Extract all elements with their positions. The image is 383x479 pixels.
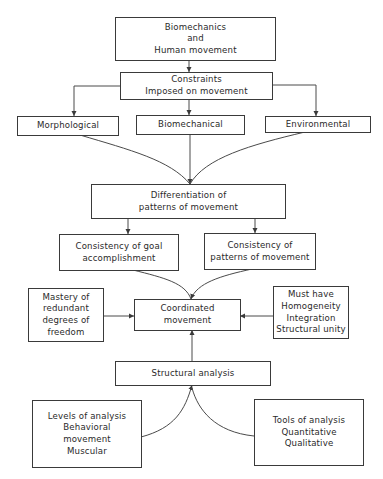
node-biomechanical: Biomechanical: [136, 115, 245, 135]
node-text: Consistency of goal: [76, 241, 163, 253]
node-text: Qualitative: [285, 438, 334, 450]
node-text: degrees of: [42, 315, 89, 327]
edge-constraints-environmental: [272, 85, 316, 116]
node-text: Integration: [286, 313, 335, 325]
node-biomechanics-human-movement: Biomechanics and Human movement: [115, 17, 276, 61]
node-text: movement: [63, 434, 111, 446]
edge-morphological-differentiation: [80, 135, 190, 184]
node-text: Quantitative: [281, 427, 336, 439]
node-text: and: [187, 33, 204, 45]
node-text: Structural analysis: [152, 368, 235, 380]
node-text: Muscular: [67, 446, 107, 458]
node-text: accomplishment: [82, 253, 155, 265]
node-coordinated-movement: Coordinated movement: [134, 299, 241, 331]
node-text: Human movement: [154, 45, 236, 57]
node-mastery: Mastery of redundant degrees of freedom: [28, 288, 104, 342]
node-consistency-goal: Consistency of goal accomplishment: [59, 234, 179, 271]
node-environmental: Environmental: [265, 116, 371, 133]
node-text: movement: [164, 315, 212, 327]
node-text: Imposed on movement: [145, 86, 247, 98]
node-text: patterns of movement: [139, 202, 238, 214]
node-text: Morphological: [37, 120, 99, 132]
node-text: Constraints: [171, 74, 222, 86]
node-text: Behavioral: [63, 422, 110, 434]
node-text: Biomechanical: [158, 119, 223, 131]
node-morphological: Morphological: [17, 116, 119, 136]
node-constraints: Constraints Imposed on movement: [120, 72, 273, 100]
node-text: freedom: [47, 327, 84, 339]
node-text: Homogeneity: [281, 301, 340, 313]
node-text: Must have: [288, 289, 334, 301]
edge-goal-coordinated: [133, 270, 191, 299]
node-text: Levels of analysis: [48, 411, 126, 423]
node-text: Environmental: [286, 119, 350, 131]
node-text: Coordinated: [160, 303, 214, 315]
node-text: patterns of movement: [210, 252, 309, 264]
edge-constraints-morphological: [74, 86, 120, 116]
edge-environmental-differentiation: [190, 132, 305, 184]
node-structural-analysis: Structural analysis: [115, 361, 271, 386]
edge-patterns-coordinated: [191, 269, 252, 299]
node-tools-of-analysis: Tools of analysis Quantitative Qualitati…: [254, 399, 364, 466]
node-text: redundant: [43, 303, 89, 315]
node-levels-of-analysis: Levels of analysis Behavioral movement M…: [32, 400, 142, 468]
node-differentiation: Differentiation of patterns of movement: [91, 184, 286, 219]
edge-tools-structural: [192, 388, 254, 436]
node-text: Consistency of: [227, 240, 292, 252]
node-must-have: Must have Homogeneity Integration Struct…: [273, 286, 349, 339]
node-text: Differentiation of: [151, 190, 227, 202]
edge-levels-structural: [141, 385, 192, 437]
node-text: Mastery of: [43, 292, 90, 304]
node-consistency-patterns: Consistency of patterns of movement: [204, 233, 316, 270]
node-text: Biomechanics: [165, 22, 226, 34]
node-text: Tools of analysis: [273, 415, 345, 427]
node-text: Structural unity: [276, 324, 345, 336]
